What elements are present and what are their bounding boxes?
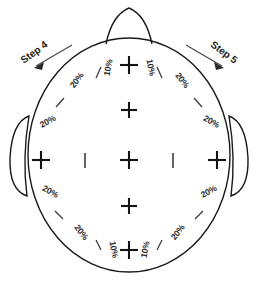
tick-mark: [55, 211, 63, 219]
pct-mid-right-lower-20: 20%: [199, 183, 219, 200]
left-ear: [10, 116, 29, 196]
pct-mid-left-lower-20: 20%: [41, 183, 61, 200]
tick-mark: [195, 211, 203, 219]
pct-bot-left-20: 20%: [72, 223, 90, 243]
step-4-arrow-head: [34, 62, 44, 70]
pct-top-right-10: 10%: [145, 58, 158, 77]
electrode-bottom: [120, 241, 138, 259]
pct-top-left-20: 20%: [68, 70, 86, 90]
pct-bot-left-10: 10%: [108, 240, 121, 259]
pct-top-left-10: 10%: [102, 58, 115, 77]
electrode-center: [120, 151, 138, 169]
step-4-label: Step 4: [18, 39, 49, 66]
pct-mid-right-upper-20: 20%: [202, 113, 222, 130]
electrode-left: [32, 151, 50, 169]
pct-mid-left-upper-20: 20%: [38, 113, 58, 130]
electrodes-group: [32, 56, 226, 259]
right-ear: [229, 116, 248, 196]
electrode-right: [208, 151, 226, 169]
tick-mark: [96, 67, 101, 78]
electrode-lower: [121, 198, 137, 214]
tick-mark: [194, 98, 202, 107]
electrode-upper: [121, 102, 137, 118]
tick-mark: [56, 98, 64, 107]
step-5-label: Step 5: [208, 39, 239, 66]
electrode-top: [120, 56, 138, 74]
pct-bot-right-10: 10%: [139, 240, 152, 259]
pct-top-right-20: 20%: [173, 71, 191, 91]
step-5-arrow-head: [214, 62, 224, 70]
diagram-canvas: 10% 10% 20% 20% 20% 20% 20% 20% 20% 20% …: [0, 0, 257, 284]
tick-mark: [157, 240, 162, 250]
pct-bot-right-20: 20%: [169, 222, 187, 242]
eeg-placement-diagram: 10% 10% 20% 20% 20% 20% 20% 20% 20% 20% …: [0, 0, 257, 284]
tick-mark: [96, 240, 101, 250]
